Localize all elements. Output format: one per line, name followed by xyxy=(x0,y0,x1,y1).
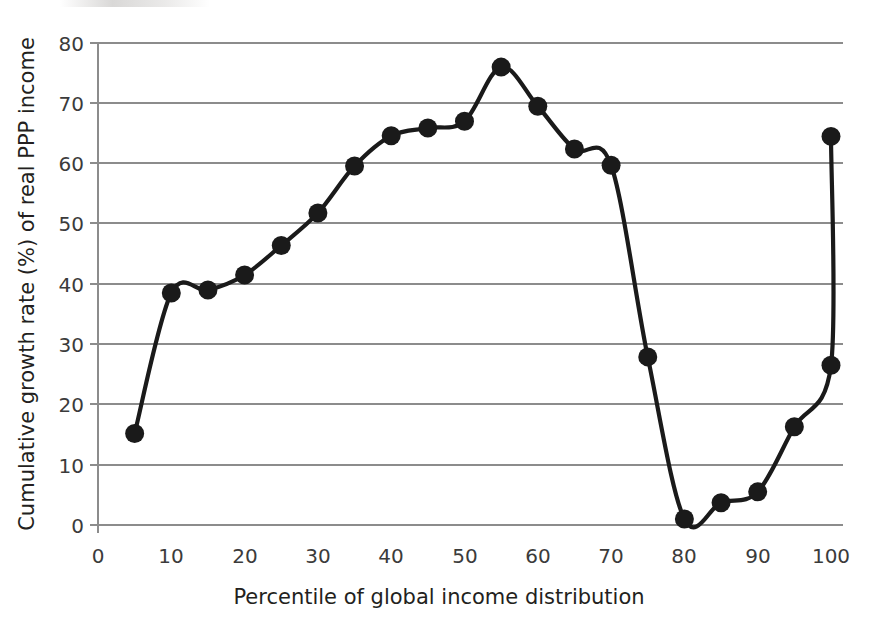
data-point xyxy=(345,156,364,175)
data-point xyxy=(565,140,584,159)
x-tick-label: 100 xyxy=(812,544,850,568)
data-point-markers xyxy=(125,58,840,529)
y-tick-label: 60 xyxy=(59,152,84,176)
data-point xyxy=(455,112,474,131)
x-tick-label: 60 xyxy=(525,544,550,568)
data-point xyxy=(528,97,547,116)
data-point xyxy=(418,118,437,137)
data-point xyxy=(382,126,401,145)
y-tick-label: 40 xyxy=(59,273,84,297)
x-axis-title: Percentile of global income distribution xyxy=(233,585,644,609)
data-point xyxy=(492,58,511,77)
data-point xyxy=(822,127,841,146)
y-tick-label: 0 xyxy=(71,514,84,538)
data-point xyxy=(675,509,694,528)
data-point xyxy=(712,493,731,512)
x-tick-labels: 0 10 20 30 40 50 60 70 80 90 100 xyxy=(92,544,850,568)
data-point xyxy=(235,265,254,284)
y-axis-ticks xyxy=(90,43,98,525)
y-tick-label: 50 xyxy=(59,212,84,236)
data-point xyxy=(822,356,841,375)
data-point xyxy=(785,417,804,436)
x-tick-label: 30 xyxy=(305,544,330,568)
y-tick-label: 70 xyxy=(59,92,84,116)
chart-figure: 80 70 60 50 40 30 20 10 0 0 10 20 30 40 … xyxy=(0,0,878,625)
x-tick-label: 90 xyxy=(745,544,770,568)
data-line xyxy=(135,67,834,527)
x-tick-label: 70 xyxy=(598,544,623,568)
x-tick-label: 20 xyxy=(232,544,257,568)
y-tick-label: 10 xyxy=(59,454,84,478)
data-point xyxy=(125,424,144,443)
x-tick-label: 10 xyxy=(158,544,183,568)
data-point xyxy=(748,482,767,501)
y-axis-title: Cumulative growth rate (%) of real PPP i… xyxy=(15,37,39,531)
data-point xyxy=(638,347,657,366)
y-tick-label: 80 xyxy=(59,32,84,56)
line-chart: 80 70 60 50 40 30 20 10 0 0 10 20 30 40 … xyxy=(0,0,878,625)
x-tick-label: 80 xyxy=(671,544,696,568)
y-tick-labels: 80 70 60 50 40 30 20 10 0 xyxy=(59,32,84,538)
data-point xyxy=(162,284,181,303)
data-point xyxy=(602,156,621,175)
data-point xyxy=(308,203,327,222)
data-point xyxy=(272,236,291,255)
y-tick-label: 30 xyxy=(59,333,84,357)
x-tick-label: 50 xyxy=(452,544,477,568)
x-tick-label: 0 xyxy=(92,544,105,568)
x-tick-label: 40 xyxy=(378,544,403,568)
y-tick-label: 20 xyxy=(59,393,84,417)
data-point xyxy=(198,281,217,300)
